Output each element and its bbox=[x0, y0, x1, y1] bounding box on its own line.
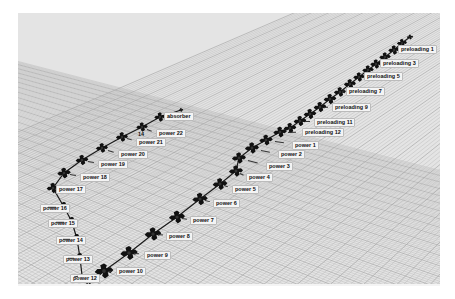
connector-node-power18[interactable] bbox=[57, 167, 71, 179]
label-leader-line bbox=[288, 131, 296, 132]
node-label[interactable]: power 21 bbox=[136, 138, 166, 147]
connector-node-power2[interactable] bbox=[245, 142, 259, 154]
node-label[interactable]: preloading 9 bbox=[332, 103, 371, 112]
node-label[interactable]: power 13 bbox=[63, 255, 93, 264]
label-leader-line bbox=[55, 222, 63, 223]
label-leader-line bbox=[68, 258, 74, 259]
node-label[interactable]: power 18 bbox=[80, 173, 110, 182]
node-label[interactable]: power 15 bbox=[48, 219, 78, 228]
connector-node[interactable] bbox=[407, 34, 414, 40]
connector-node-power3[interactable] bbox=[232, 152, 246, 164]
node-label[interactable]: preloading 3 bbox=[380, 59, 419, 68]
node-label[interactable]: power 19 bbox=[98, 160, 128, 169]
label-leader-line bbox=[324, 106, 328, 107]
connector-node-preloading12[interactable] bbox=[273, 126, 287, 138]
node-label[interactable]: power 8 bbox=[166, 232, 193, 241]
connector-icon bbox=[192, 192, 208, 205]
node-label[interactable]: power 1 bbox=[292, 141, 319, 150]
label-leader-line bbox=[108, 270, 112, 271]
connector-icon bbox=[273, 126, 287, 138]
node-label[interactable]: preloading 11 bbox=[314, 118, 355, 127]
node-label[interactable]: preloading 7 bbox=[346, 87, 385, 96]
connector-icon bbox=[96, 143, 108, 153]
connector-icon bbox=[245, 142, 259, 154]
node-label[interactable]: power 2 bbox=[278, 150, 305, 159]
node-label[interactable]: power 12 bbox=[70, 274, 100, 283]
connector-icon bbox=[76, 155, 89, 166]
node-label[interactable]: power 16 bbox=[40, 204, 70, 213]
extra-label: 14 bbox=[136, 131, 146, 138]
node-label[interactable]: absorber bbox=[164, 112, 194, 121]
connector-node[interactable] bbox=[178, 108, 183, 112]
node-label[interactable]: power 7 bbox=[190, 216, 217, 225]
node-label[interactable]: power 14 bbox=[56, 236, 86, 245]
label-leader-line bbox=[62, 239, 69, 240]
node-label[interactable]: power 4 bbox=[246, 173, 273, 182]
connector-node-power20[interactable] bbox=[96, 143, 108, 153]
node-label[interactable]: power 20 bbox=[118, 150, 148, 159]
label-leader-line bbox=[305, 121, 310, 122]
node-label[interactable]: power 9 bbox=[144, 251, 171, 260]
node-label[interactable]: preloading 5 bbox=[364, 72, 403, 81]
connector-icon bbox=[259, 134, 273, 146]
connector-icon bbox=[407, 34, 414, 40]
connector-icon bbox=[169, 210, 185, 224]
connector-node-power19[interactable] bbox=[76, 155, 89, 166]
connector-icon bbox=[232, 152, 246, 164]
node-label[interactable]: preloading 1 bbox=[398, 45, 437, 54]
connector-node-power7[interactable] bbox=[169, 210, 185, 224]
connector-icon bbox=[229, 165, 243, 177]
node-label[interactable]: power 3 bbox=[266, 162, 293, 171]
node-label[interactable]: preloading 12 bbox=[302, 128, 344, 137]
label-leader-line bbox=[47, 207, 55, 208]
connector-node-power5[interactable] bbox=[213, 178, 228, 191]
label-leader-line bbox=[181, 218, 186, 219]
3d-viewport[interactable]: preloading 1preloading 3preloading 5prel… bbox=[18, 13, 440, 286]
node-label[interactable]: power 5 bbox=[232, 185, 259, 194]
node-label[interactable]: power 10 bbox=[116, 267, 146, 276]
connector-icon bbox=[178, 108, 183, 112]
connector-icon bbox=[213, 178, 228, 191]
connector-node-power4[interactable] bbox=[229, 165, 243, 177]
node-label[interactable]: power 22 bbox=[156, 129, 186, 138]
connector-node-power6[interactable] bbox=[192, 192, 208, 205]
node-label[interactable]: power 6 bbox=[213, 199, 240, 208]
connector-node-power1[interactable] bbox=[259, 134, 273, 146]
node-label[interactable]: power 17 bbox=[56, 185, 86, 194]
connector-icon bbox=[57, 167, 71, 179]
